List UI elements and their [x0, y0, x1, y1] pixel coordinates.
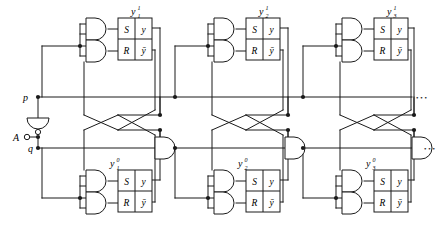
wire-junction-dot	[301, 146, 305, 150]
output-sub: 1	[117, 165, 120, 171]
latch-ybar-label: ȳ	[268, 198, 274, 208]
svg-text:y: y	[258, 6, 264, 17]
and-gate-s3-top-set[interactable]	[342, 18, 362, 40]
latch-r-label: R	[379, 198, 386, 208]
sr-latch-s2-top[interactable]: S y R ȳ	[246, 18, 280, 60]
output-sub: 2	[245, 165, 248, 171]
q-line-continuation-dots: • • •	[424, 145, 435, 153]
latch-y-label: y	[268, 177, 274, 187]
svg-text:y: y	[365, 158, 371, 169]
wire-junction-dot	[158, 113, 162, 117]
latch-y-label: y	[268, 25, 274, 35]
output-label-s1-bottom: y 1 0	[109, 157, 120, 171]
and-gate-s2-bot-reset[interactable]	[214, 192, 234, 214]
wire-junction-dot	[206, 44, 210, 48]
wire-junction-dot	[78, 44, 82, 48]
latch-y-label: y	[396, 177, 402, 187]
latch-s-label: S	[124, 177, 129, 187]
latch-ybar-label: ȳ	[396, 198, 402, 208]
wire-junction-dot	[36, 146, 40, 150]
wire-junction-dot	[334, 44, 338, 48]
and-gate-s1-top-set[interactable]	[86, 18, 106, 40]
wire-junction-dot	[158, 128, 162, 132]
circuit-svg: S y R ȳ S y R ȳ S y R ȳ S y R ȳ S y	[0, 0, 437, 235]
circuit-diagram-canvas: S y R ȳ S y R ȳ S y R ȳ S y R ȳ S y	[0, 0, 437, 235]
sr-latch-s3-top[interactable]: S y R ȳ	[374, 18, 408, 60]
svg-text:y: y	[386, 6, 392, 17]
output-sub: 2	[266, 13, 269, 19]
output-sub: 1	[138, 13, 141, 19]
output-label-s2-bottom: y 2 0	[237, 157, 248, 171]
latch-ybar-label: ȳ	[268, 46, 274, 56]
p-line-continuation-dots: • • •	[416, 94, 427, 102]
and-gate-s2-top-set[interactable]	[214, 18, 234, 40]
inverter-gate[interactable]	[27, 118, 49, 135]
q-input-label: q	[28, 143, 33, 154]
wire-junction-dot	[78, 196, 82, 200]
output-sup: 0	[373, 157, 376, 163]
wire-junction-dot	[36, 135, 40, 139]
output-label-s1-top: y 1 1	[130, 5, 141, 19]
output-label-s3-bottom: y 3 0	[365, 157, 376, 171]
latch-s-label: S	[380, 177, 385, 187]
and-gate-s3-bot-reset[interactable]	[342, 192, 362, 214]
wire-junction-dot	[334, 196, 338, 200]
p-input-label: p	[22, 92, 28, 103]
latch-s-label: S	[252, 177, 257, 187]
wire-junction-dot	[173, 146, 177, 150]
sr-latch-s2-bottom[interactable]: S y R ȳ	[246, 170, 280, 212]
latch-s-label: S	[124, 25, 129, 35]
latch-r-label: R	[251, 46, 258, 56]
latch-r-label: R	[123, 198, 130, 208]
latch-r-label: R	[123, 46, 130, 56]
output-label-s3-top: y 3 1	[386, 5, 397, 19]
latch-y-label: y	[140, 25, 146, 35]
output-sup: 1	[138, 5, 141, 11]
sr-latch-s1-top[interactable]: S y R ȳ	[118, 18, 152, 60]
wire-junction-dot	[206, 196, 210, 200]
wire-junction-dot	[301, 95, 305, 99]
latch-s-label: S	[252, 25, 257, 35]
wire-junction-dot	[173, 95, 177, 99]
output-sub: 3	[372, 165, 376, 171]
and-gate-s2-bot-set[interactable]	[214, 170, 234, 192]
latch-y-label: y	[140, 177, 146, 187]
output-sup: 0	[117, 157, 120, 163]
latch-ybar-label: ȳ	[396, 46, 402, 56]
and-gate-q-stage1[interactable]	[155, 137, 175, 159]
output-sub: 3	[393, 13, 397, 19]
a-input-label: A	[12, 132, 20, 143]
sr-latch-s1-bottom[interactable]: S y R ȳ	[118, 170, 152, 212]
wire-junction-dot	[286, 113, 290, 117]
latch-ybar-label: ȳ	[140, 46, 146, 56]
and-gate-s1-bot-reset[interactable]	[86, 192, 106, 214]
and-gate-s1-top-reset[interactable]	[86, 40, 106, 62]
output-sup: 1	[394, 5, 397, 11]
output-label-s2-top: y 2 1	[258, 5, 269, 19]
svg-text:y: y	[130, 6, 136, 17]
latch-r-label: R	[379, 46, 386, 56]
wire-junction-dot	[412, 128, 416, 132]
latch-y-label: y	[396, 25, 402, 35]
output-sup: 0	[245, 157, 248, 163]
wire-junction-dot	[286, 128, 290, 132]
latch-r-label: R	[251, 198, 258, 208]
output-sup: 1	[266, 5, 269, 11]
sr-latch-s3-bottom[interactable]: S y R ȳ	[374, 170, 408, 212]
and-gate-s3-top-reset[interactable]	[342, 40, 362, 62]
wire-junction-dot	[36, 95, 40, 99]
and-gate-s1-bot-set[interactable]	[86, 170, 106, 192]
input-terminal-circle-a[interactable]	[24, 134, 29, 139]
and-gate-s2-top-reset[interactable]	[214, 40, 234, 62]
svg-text:y: y	[109, 158, 115, 169]
and-gate-s3-bot-set[interactable]	[342, 170, 362, 192]
latch-ybar-label: ȳ	[140, 198, 146, 208]
latch-s-label: S	[380, 25, 385, 35]
svg-text:y: y	[237, 158, 243, 169]
wire-junction-dot	[412, 113, 416, 117]
